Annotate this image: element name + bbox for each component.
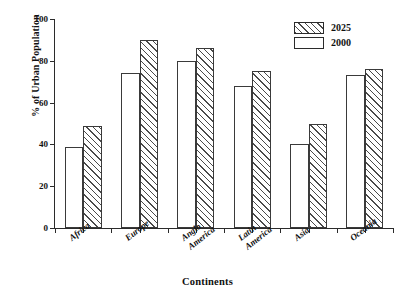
bar-chart: % of Urban Population 020406080100 Afric…	[0, 0, 415, 297]
legend-swatch-2025	[294, 22, 324, 34]
chart-legend: 20252000	[294, 20, 351, 50]
legend-label: 2000	[331, 37, 351, 48]
bar-2000	[121, 73, 140, 228]
y-tick	[50, 19, 55, 20]
x-tick	[168, 228, 169, 233]
y-tick	[50, 103, 55, 104]
x-tick	[111, 228, 112, 233]
legend-label: 2025	[331, 22, 351, 33]
bar-2000	[65, 147, 84, 229]
bar-2025	[140, 40, 159, 228]
x-tick	[337, 228, 338, 233]
legend-item: 2025	[294, 20, 351, 35]
y-tick	[50, 186, 55, 187]
bar-2025	[83, 126, 102, 228]
y-tick-label: 100	[35, 14, 49, 24]
y-tick-label: 60	[39, 98, 48, 108]
bar-2025	[365, 69, 384, 228]
x-tick	[393, 228, 394, 233]
bar-2025	[309, 124, 328, 229]
bar-2000	[346, 75, 365, 228]
y-tick	[50, 144, 55, 145]
y-tick	[50, 61, 55, 62]
x-tick	[224, 228, 225, 233]
x-axis-title: Continents	[0, 276, 415, 287]
y-axis-title: % of Urban Population	[30, 0, 41, 181]
y-tick-label: 40	[39, 139, 48, 149]
y-axis-line	[54, 19, 55, 229]
legend-swatch-2000	[294, 37, 324, 49]
x-tick	[280, 228, 281, 233]
bar-2025	[196, 48, 215, 228]
bar-2000	[290, 144, 309, 228]
x-tick	[55, 228, 56, 233]
y-tick-label: 20	[39, 181, 48, 191]
plot-area: 020406080100 AfricaEuropeAnglo AmericaLa…	[55, 19, 393, 228]
y-tick-label: 80	[39, 56, 48, 66]
bar-2025	[252, 71, 271, 228]
legend-item: 2000	[294, 35, 351, 50]
bar-2000	[234, 86, 253, 228]
y-tick-label: 0	[44, 223, 49, 233]
bar-2000	[177, 61, 196, 228]
